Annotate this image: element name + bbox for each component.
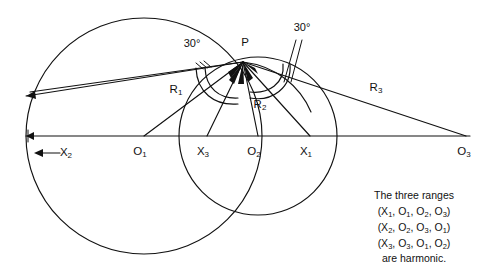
label-point-p: P bbox=[241, 36, 249, 48]
label-radius-r3-sub: 3 bbox=[378, 86, 383, 95]
note-line-3-open: (X bbox=[378, 221, 389, 233]
note-line-1: The three ranges bbox=[374, 189, 454, 201]
note-line-4-open: (X bbox=[378, 237, 389, 249]
x2-pointer bbox=[34, 149, 60, 157]
label-radius-r2-sub: 2 bbox=[262, 103, 267, 112]
label-point-o3: O3 bbox=[457, 145, 471, 159]
note-line-2-b: , O bbox=[410, 205, 424, 217]
note-line-2-a: , O bbox=[392, 205, 406, 217]
label-point-o3-sub: 3 bbox=[466, 150, 471, 159]
angle-leader-right-2 bbox=[291, 40, 302, 82]
label-radius-r1-sub: 1 bbox=[178, 88, 183, 97]
label-point-o3-base: O bbox=[457, 145, 466, 157]
label-point-x3: X3 bbox=[197, 145, 210, 159]
note-line-3-c: , O bbox=[429, 221, 443, 233]
radius-line-r1 bbox=[144, 62, 243, 136]
note-line-3: (X2, O2, O3, O1) bbox=[378, 221, 451, 235]
note-line-4-a: , O bbox=[392, 237, 406, 249]
note-line-4-close: ) bbox=[447, 237, 451, 249]
label-radius-r1: R1 bbox=[170, 83, 183, 97]
label-point-o2-base: O bbox=[247, 145, 256, 157]
harmonic-ranges-figure: P O1 X3 O2 X1 O3 X2 R1 R2 R3 30° 30° The… bbox=[0, 0, 494, 267]
note-line-3-b: , O bbox=[410, 221, 424, 233]
figure-canvas: P O1 X3 O2 X1 O3 X2 R1 R2 R3 30° 30° The… bbox=[0, 0, 494, 267]
label-radius-r2-base: R bbox=[254, 98, 262, 110]
label-point-o1-base: O bbox=[133, 145, 142, 157]
note-line-2: (X1, O1, O2, O3) bbox=[378, 205, 451, 219]
label-point-o2: O2 bbox=[247, 145, 261, 159]
label-point-x2: X2 bbox=[60, 146, 73, 160]
label-point-x1: X1 bbox=[300, 145, 313, 159]
note-line-2-open: (X bbox=[378, 205, 389, 217]
note-line-4-b: , O bbox=[410, 237, 424, 249]
note-line-4: (X3, O3, O1, O2) bbox=[378, 237, 451, 251]
label-point-x1-sub: 1 bbox=[308, 150, 313, 159]
label-point-o1-sub: 1 bbox=[142, 150, 147, 159]
note-line-2-close: ) bbox=[447, 205, 451, 217]
label-radius-r2: R2 bbox=[254, 98, 267, 112]
x2-pointer-arrowhead bbox=[34, 149, 43, 157]
note-line-4-c: , O bbox=[429, 237, 443, 249]
note-line-2-c: , O bbox=[429, 205, 443, 217]
note-line-3-close: ) bbox=[447, 221, 451, 233]
label-point-o2-sub: 2 bbox=[256, 150, 261, 159]
label-radius-r3-base: R bbox=[370, 81, 378, 93]
label-radius-r3: R3 bbox=[370, 81, 383, 95]
note-line-5: are harmonic. bbox=[382, 252, 446, 264]
angle-leader-right-1 bbox=[284, 40, 296, 82]
axis-left-arrowhead bbox=[26, 132, 34, 140]
label-point-x2-sub: 2 bbox=[68, 151, 73, 160]
harmonic-note: The three ranges (X1, O1, O2, O3) (X2, O… bbox=[374, 189, 454, 264]
label-radius-r1-base: R bbox=[170, 83, 178, 95]
label-point-o1: O1 bbox=[133, 145, 147, 159]
note-line-3-a: , O bbox=[392, 221, 406, 233]
label-angle-left: 30° bbox=[184, 37, 201, 49]
label-angle-right: 30° bbox=[294, 21, 311, 33]
label-point-x3-sub: 3 bbox=[205, 150, 210, 159]
